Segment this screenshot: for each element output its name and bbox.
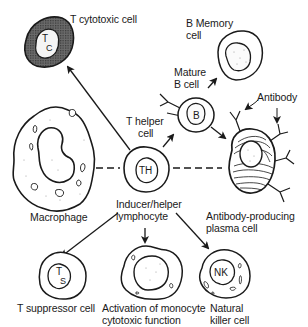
label-nk-line1: Natural bbox=[210, 302, 243, 314]
label-macrophage: Macrophage bbox=[30, 211, 87, 223]
immune-cell-diagram: T C B bbox=[0, 0, 308, 327]
nk-inner-label: NK bbox=[214, 267, 228, 278]
label-plasma-line2: plasma cell bbox=[206, 222, 257, 234]
diagram-artwork: T C B bbox=[0, 0, 308, 327]
label-inducer-helper: Inducer/helper bbox=[116, 198, 182, 210]
arrow-to-b-memory bbox=[208, 79, 216, 88]
t-suppressor-cell: T S bbox=[39, 252, 86, 299]
t-cytotoxic-inner-c: C bbox=[46, 43, 53, 53]
t-helper-cell: TH bbox=[124, 147, 169, 192]
label-nk-line2: killer cell bbox=[210, 314, 249, 326]
label-b-memory-line1: B Memory bbox=[186, 17, 233, 29]
monocyte-cell bbox=[121, 246, 182, 299]
label-t-helper-line2: cell bbox=[138, 127, 153, 139]
t-cytotoxic-cell: T C bbox=[25, 17, 74, 67]
arrow-to-mature-b bbox=[163, 135, 173, 147]
t-suppressor-inner-s: S bbox=[60, 276, 66, 286]
label-mature-b-line2: B cell bbox=[174, 78, 199, 90]
mature-b-cell: B bbox=[160, 94, 214, 132]
label-lymphocyte: lymphocyte bbox=[116, 210, 168, 222]
plasma-cell bbox=[229, 100, 294, 202]
macrophage-cell bbox=[13, 107, 94, 211]
label-t-suppressor: T suppressor cell bbox=[17, 302, 95, 314]
label-t-cytotoxic-cell: T cytotoxic cell bbox=[70, 13, 137, 25]
arrow-to-plasma-cell bbox=[211, 127, 225, 138]
t-helper-inner-label: TH bbox=[139, 165, 152, 176]
label-monocyte-line1: Activation of monocyte bbox=[102, 302, 205, 314]
label-monocyte-line2: cytotoxic function bbox=[102, 314, 181, 326]
label-mature-b-line1: Mature bbox=[174, 66, 206, 78]
b-memory-cell bbox=[218, 31, 262, 80]
label-b-memory-line2: cell bbox=[186, 29, 201, 41]
mature-b-inner-label: B bbox=[193, 110, 200, 121]
arrow-to-nk-cell bbox=[176, 213, 208, 248]
label-antibody: Antibody bbox=[257, 91, 297, 103]
nk-cell: NK bbox=[200, 250, 250, 298]
label-plasma-line1: Antibody-producing bbox=[206, 210, 295, 222]
label-t-helper-line1: T helper bbox=[126, 115, 164, 127]
